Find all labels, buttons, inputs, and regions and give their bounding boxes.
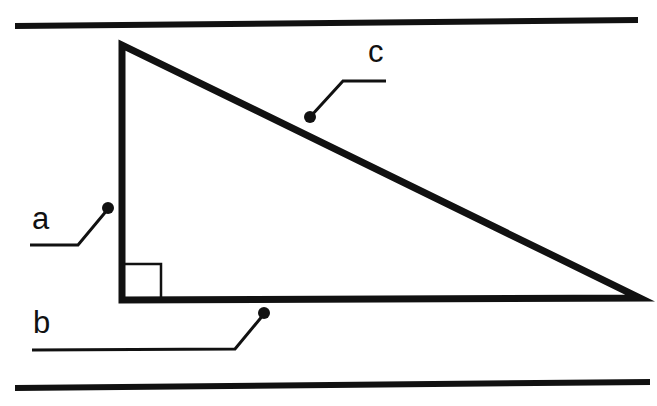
bottom-rule <box>15 382 650 388</box>
leader-dot-a <box>102 202 114 214</box>
leader-line-c <box>311 81 386 116</box>
right-angle-square <box>122 264 161 300</box>
leader-dot-b <box>258 307 270 319</box>
right-triangle-figure: a b c <box>0 0 657 406</box>
right-triangle <box>122 45 640 300</box>
side-label-c: c <box>368 34 384 69</box>
side-label-b: b <box>33 305 50 340</box>
top-rule <box>15 20 638 26</box>
diagram-canvas: a b c <box>0 0 657 406</box>
leader-line-b <box>32 314 264 350</box>
side-label-a: a <box>32 201 50 236</box>
leader-dot-c <box>304 111 316 123</box>
